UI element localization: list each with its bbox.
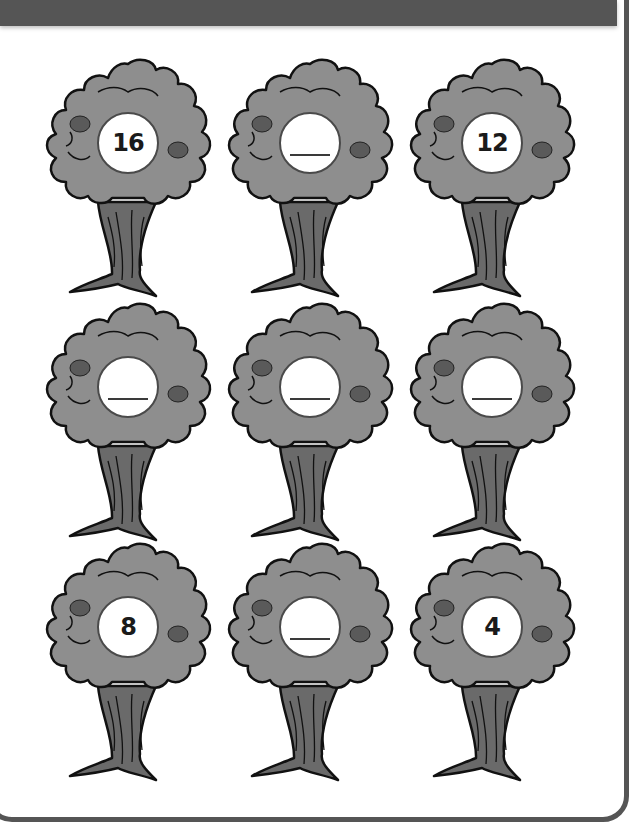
tree-icon: [210, 296, 410, 546]
answer-circle[interactable]: [461, 356, 523, 418]
answer-blank-line: [290, 638, 330, 640]
answer-circle[interactable]: [279, 596, 341, 658]
answer-blank-line: [290, 154, 330, 156]
tree-card: [392, 296, 592, 546]
tree-icon: [392, 296, 592, 546]
number-circle: 4: [461, 596, 523, 658]
tree-card: [210, 52, 410, 302]
tree-card: 16: [28, 52, 228, 302]
tree-icon: [210, 536, 410, 786]
answer-blank-line: [290, 398, 330, 400]
number-value: 12: [476, 129, 507, 157]
answer-circle[interactable]: [279, 112, 341, 174]
number-value: 8: [120, 613, 136, 641]
tree-card: [28, 296, 228, 546]
answer-circle[interactable]: [97, 356, 159, 418]
answer-blank-line: [472, 398, 512, 400]
tree-card: [210, 536, 410, 786]
number-value: 16: [112, 129, 143, 157]
number-value: 4: [484, 613, 500, 641]
answer-blank-line: [108, 398, 148, 400]
number-circle: 12: [461, 112, 523, 174]
tree-card: [210, 296, 410, 546]
tree-icon: [28, 536, 228, 786]
tree-icon: [392, 536, 592, 786]
tree-card: 8: [28, 536, 228, 786]
tree-icon: [210, 52, 410, 302]
tree-icon: [392, 52, 592, 302]
number-circle: 16: [97, 112, 159, 174]
tree-card: 4: [392, 536, 592, 786]
answer-circle[interactable]: [279, 356, 341, 418]
tree-icon: [28, 296, 228, 546]
number-circle: 8: [97, 596, 159, 658]
tree-card: 12: [392, 52, 592, 302]
tree-icon: [28, 52, 228, 302]
